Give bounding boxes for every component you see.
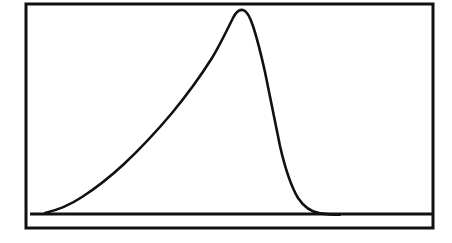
distribution-chart	[0, 0, 452, 243]
figure-root: Right-skewed unimodal distribution curve…	[0, 0, 452, 243]
chart-background	[0, 0, 452, 243]
